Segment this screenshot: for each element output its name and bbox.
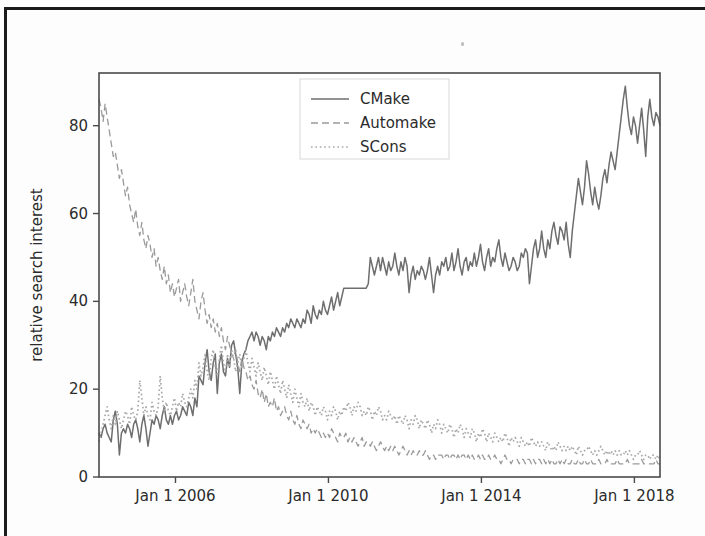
x-tick-label: Jan 1 2014	[440, 487, 521, 505]
x-axis-ticks: Jan 1 2006Jan 1 2010Jan 1 2014Jan 1 2018	[134, 477, 674, 505]
y-tick-label: 20	[69, 380, 88, 398]
y-axis-title: relative search interest	[28, 188, 46, 362]
y-tick-label: 80	[69, 117, 88, 135]
x-tick-label: Jan 1 2010	[287, 487, 368, 505]
x-tick-label: Jan 1 2006	[134, 487, 215, 505]
y-tick-label: 40	[69, 292, 88, 310]
y-axis-ticks: 020406080	[69, 117, 99, 486]
chart-legend: CMakeAutomakeSCons	[300, 79, 449, 159]
scanned-page: 020406080 Jan 1 2006Jan 1 2010Jan 1 2014…	[0, 0, 705, 536]
search-interest-line-chart: 020406080 Jan 1 2006Jan 1 2010Jan 1 2014…	[0, 0, 705, 536]
x-tick-label: Jan 1 2018	[593, 487, 674, 505]
y-tick-label: 0	[78, 468, 88, 486]
legend-label-automake: Automake	[360, 114, 436, 132]
legend-label-scons: SCons	[360, 138, 407, 156]
y-tick-label: 60	[69, 205, 88, 223]
legend-label-cmake: CMake	[360, 90, 410, 108]
